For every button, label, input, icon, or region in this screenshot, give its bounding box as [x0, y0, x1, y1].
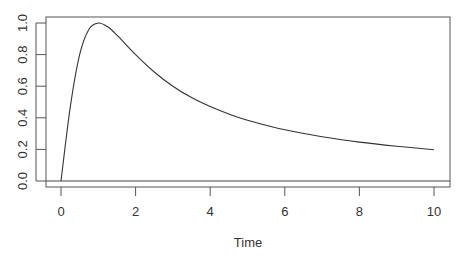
- x-tick-label: 6: [281, 204, 288, 219]
- line-chart: 0.00.20.40.60.81.0 0246810 Time: [0, 0, 468, 257]
- y-tick-label: 0.6: [15, 77, 30, 95]
- plot-box: [46, 17, 450, 187]
- x-tick-label: 0: [57, 204, 64, 219]
- y-tick-label: 0.8: [15, 46, 30, 64]
- x-axis: 0246810: [57, 187, 441, 219]
- y-tick-label: 0.4: [15, 109, 30, 127]
- y-tick-label: 0.2: [15, 140, 30, 158]
- x-tick-label: 4: [207, 204, 214, 219]
- y-tick-label: 0.0: [15, 172, 30, 190]
- x-tick-label: 10: [427, 204, 441, 219]
- x-axis-label: Time: [234, 235, 262, 250]
- x-tick-label: 2: [132, 204, 139, 219]
- y-tick-label: 1.0: [15, 14, 30, 32]
- x-tick-label: 8: [356, 204, 363, 219]
- data-line: [61, 23, 434, 181]
- y-axis: 0.00.20.40.60.81.0: [15, 14, 46, 190]
